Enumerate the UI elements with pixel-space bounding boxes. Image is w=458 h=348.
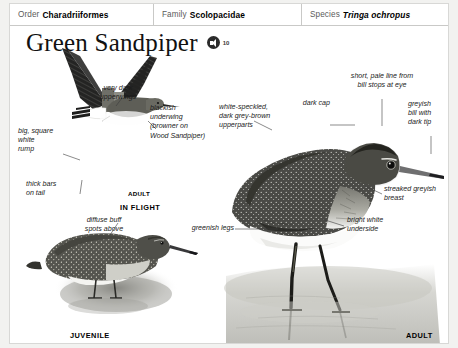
taxonomy-order-cell: Order Charadriiformes (10, 4, 154, 25)
annotation-thick-bars-on-tail: thick bars on tail (26, 180, 82, 198)
taxonomy-species-cell: Species Tringa ochropus (302, 4, 448, 25)
taxonomy-species-value: Tringa ochropus (343, 10, 410, 20)
annotation-blackish-underwing: blackish underwing (browner on Wood Sand… (150, 104, 222, 141)
taxonomy-header: Order Charadriiformes Family Scolopacida… (10, 4, 448, 26)
annotation-dark-cap: dark cap (286, 99, 330, 108)
taxonomy-order-value: Charadriiformes (42, 10, 108, 20)
plate-label-juvenile: JUVENILE (70, 331, 110, 340)
taxonomy-species-key: Species (310, 10, 340, 19)
taxonomy-family-key: Family (162, 10, 187, 19)
plate-label-in-flight: IN FLIGHT (120, 203, 160, 212)
annotation-diffuse-buff-spots: diffuse buff spots above (70, 216, 138, 234)
taxonomy-family-value: Scolopacidae (190, 10, 245, 20)
annotation-greenish-legs: greenish legs (178, 224, 234, 233)
plate-label-adult-flight: ADULT (128, 190, 150, 197)
taxonomy-family-cell: Family Scolopacidae (154, 4, 302, 25)
field-guide-sheet: Order Charadriiformes Family Scolopacida… (9, 3, 449, 344)
annotation-bright-white-underside: bright white underside (347, 216, 409, 234)
annotation-streaked-greyish-breast: streaked greyish breast (384, 185, 449, 203)
annotation-big-square-white-rump: big, square white rump (18, 127, 66, 155)
annotation-greyish-bill: greyish bill with dark tip (408, 100, 449, 128)
annotation-very-dark-upperwings: very dark upperwings (72, 84, 164, 102)
bird-juvenile-illustration (26, 233, 198, 314)
bird-adult-illustration (224, 143, 444, 344)
annotation-short-pale-line: short, pale line from bill stops at eye (328, 72, 436, 90)
taxonomy-order-key: Order (18, 10, 39, 19)
plate-label-adult: ADULT (406, 331, 433, 340)
page-background: Order Charadriiformes Family Scolopacida… (0, 0, 458, 348)
